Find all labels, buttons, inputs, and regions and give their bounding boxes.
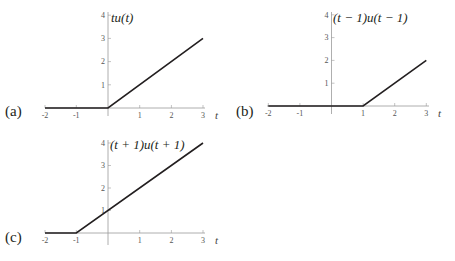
axis-variable-t: t [438, 107, 442, 119]
y-tick-label: 3 [325, 33, 329, 42]
y-tick-label: 4 [101, 139, 105, 148]
x-tick-label: 1 [361, 109, 365, 118]
x-tick-label: 2 [169, 236, 173, 245]
panel-b-label: (b) [236, 103, 254, 120]
y-tick-label: 3 [101, 161, 105, 170]
y-tick-label: 3 [101, 34, 105, 43]
y-tick-label: 2 [101, 184, 105, 193]
axis-variable-t: t [215, 234, 219, 246]
ramp-function-plots: -2 -1 1 2 3 1 2 3 4 t -2 -1 1 2 3 1 2 3 … [0, 0, 455, 261]
panel-c-function-label: (t + 1)u(t + 1) [110, 137, 185, 153]
x-tick-label: -2 [42, 236, 49, 245]
x-tick-label: -2 [265, 109, 272, 118]
x-tick-label: 3 [201, 236, 205, 245]
panel-c-label: (c) [5, 229, 22, 246]
x-tick-label: 1 [138, 236, 142, 245]
x-tick-label: 2 [393, 109, 397, 118]
x-tick-label: -1 [73, 236, 80, 245]
x-tick-label: 3 [424, 109, 428, 118]
panel-a-plot: -2 -1 1 2 3 1 2 3 4 t [42, 11, 219, 121]
x-tick-label: -1 [297, 109, 304, 118]
x-tick-label: -2 [42, 111, 49, 120]
y-tick-label: 2 [325, 56, 329, 65]
panel-b-function-label: (t − 1)u(t − 1) [333, 10, 408, 26]
x-tick-label: 2 [169, 111, 173, 120]
y-tick-label: 2 [101, 57, 105, 66]
y-tick-marks [108, 143, 111, 211]
y-tick-label: 4 [101, 11, 105, 20]
axis-variable-t: t [215, 109, 219, 121]
y-tick-label: 4 [325, 11, 329, 20]
y-tick-label: 1 [101, 81, 105, 90]
panel-a-function-label: tu(t) [111, 10, 133, 26]
panel-c-plot: -2 -1 1 2 3 1 2 3 4 t [42, 139, 219, 246]
shifted-ramp-curve [45, 143, 203, 233]
x-tick-label: 1 [138, 111, 142, 120]
ramp-curve [45, 38, 203, 108]
panel-a-label: (a) [5, 103, 22, 120]
x-tick-label: 3 [201, 111, 205, 120]
shifted-ramp-curve [268, 60, 426, 106]
y-tick-label: 1 [325, 79, 329, 88]
panel-b-plot: -2 -1 1 2 3 1 2 3 4 t [265, 11, 442, 120]
x-tick-label: -1 [73, 111, 80, 120]
